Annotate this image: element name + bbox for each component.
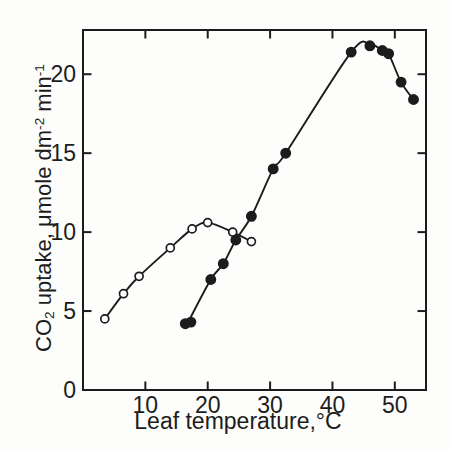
ylabel-dm-exponent: -2 — [32, 118, 47, 130]
ylabel-units: uptake, μmole dm — [31, 130, 56, 311]
series-curve-filled-circles — [188, 41, 414, 322]
data-point-filled-circles — [219, 259, 228, 268]
data-point-open-circles — [120, 290, 128, 298]
data-point-filled-circles — [231, 235, 240, 244]
data-point-filled-circles — [397, 78, 406, 87]
data-point-filled-circles — [409, 95, 418, 104]
data-point-open-circles — [166, 244, 174, 252]
data-point-open-circles — [135, 272, 143, 280]
data-point-filled-circles — [206, 275, 215, 284]
figure-co2-uptake-vs-leaf-temperature: 102030405005101520 Leaf temperature,°C C… — [0, 0, 451, 452]
chart-canvas: 102030405005101520 — [0, 0, 451, 452]
data-point-open-circles — [188, 225, 196, 233]
data-point-filled-circles — [365, 41, 374, 50]
data-point-filled-circles — [384, 49, 393, 58]
data-point-filled-circles — [281, 149, 290, 158]
ylabel-co: CO — [31, 319, 56, 352]
series-curve-open-circles — [105, 223, 252, 319]
data-point-open-circles — [247, 238, 255, 246]
y-axis-title: CO2 uptake, μmole dm-2 min-1 — [30, 18, 58, 398]
ylabel-min: min — [31, 76, 56, 118]
ylabel-min-exponent: -1 — [32, 64, 47, 76]
data-point-open-circles — [204, 219, 212, 227]
y-axis-tick-label: 5 — [63, 298, 76, 324]
data-point-filled-circles — [186, 318, 195, 327]
data-point-filled-circles — [347, 48, 356, 57]
ylabel-co-subscript: 2 — [42, 311, 57, 319]
data-point-open-circles — [101, 315, 109, 323]
data-point-filled-circles — [269, 164, 278, 173]
y-axis-tick-label: 0 — [63, 377, 76, 403]
data-point-filled-circles — [247, 212, 256, 221]
x-axis-title: Leaf temperature,°C — [83, 410, 393, 433]
